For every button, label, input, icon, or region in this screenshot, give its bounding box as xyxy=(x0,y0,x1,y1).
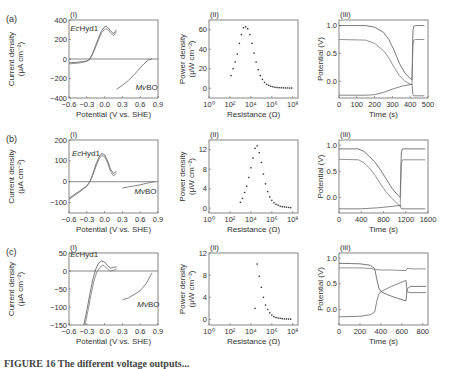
data-point xyxy=(253,52,254,53)
panel-label: (iii) xyxy=(340,10,351,19)
data-point xyxy=(265,304,266,305)
data-point xyxy=(285,87,286,88)
panel-label: (i) xyxy=(70,130,77,139)
annotation: EcHyd1 xyxy=(70,24,99,33)
series-line xyxy=(339,205,425,209)
series-line xyxy=(122,273,152,300)
series-line xyxy=(339,84,424,96)
y-axis-unit: (μA cm⁻²) xyxy=(16,159,25,194)
data-point xyxy=(262,79,263,80)
panel-c-iii: (iii)02004006008000.00.51.0Time (s)Poten… xyxy=(316,243,429,346)
plot-frame xyxy=(209,140,298,213)
data-point xyxy=(275,204,276,205)
x-tick-label: 0.3 xyxy=(117,327,127,336)
plot-frame xyxy=(339,20,428,98)
data-point xyxy=(265,183,266,184)
x-tick-label: 10⁶ xyxy=(266,215,277,224)
annotation: MvBO xyxy=(134,187,156,196)
x-axis-label: Potential (V vs. SHE) xyxy=(76,225,151,234)
y-tick-label: 0.5 xyxy=(327,279,337,288)
panel-label: (i) xyxy=(70,10,77,19)
data-point xyxy=(278,87,279,88)
data-point xyxy=(261,287,262,288)
data-point xyxy=(288,207,289,208)
data-point xyxy=(274,87,275,88)
y-axis-unit: (μW cm⁻²) xyxy=(187,270,196,307)
x-tick-label: 0.3 xyxy=(117,215,127,224)
x-tick-label: 10⁰ xyxy=(203,215,214,224)
x-axis-label: Time (s) xyxy=(369,225,398,234)
y-tick-label: 0.0 xyxy=(327,193,337,202)
plot-frame xyxy=(69,253,158,325)
y-tick-label: 50 xyxy=(59,249,67,258)
x-tick-label: 0.9 xyxy=(153,327,163,336)
y-tick-label: −200 xyxy=(50,74,67,83)
x-tick-label: 0.0 xyxy=(99,215,109,224)
panel-a-iii: (iii)01002003004005000.00.51.0Time (s)Po… xyxy=(316,10,434,119)
data-point xyxy=(273,202,274,203)
data-point xyxy=(263,173,264,174)
x-tick-label: 0 xyxy=(337,327,341,336)
row-label: (b) xyxy=(6,134,17,144)
x-tick-label: 0.3 xyxy=(117,100,127,109)
panel-a-ii: (ii)10⁰10²10⁴10⁶10⁸0204060Resistance (Ω)… xyxy=(178,10,299,119)
x-axis-label: Time (s) xyxy=(369,110,398,119)
series-line xyxy=(339,26,424,80)
series-line xyxy=(69,156,117,200)
y-axis-label: Current density xyxy=(7,149,16,203)
data-point xyxy=(282,318,283,319)
data-point xyxy=(237,53,238,54)
x-tick-label: 10⁴ xyxy=(245,100,257,109)
x-tick-label: 0 xyxy=(337,215,341,224)
x-tick-label: 10⁸ xyxy=(287,215,299,224)
x-tick-label: 800 xyxy=(417,327,430,336)
data-point xyxy=(240,202,241,203)
x-tick-label: 10⁰ xyxy=(203,327,214,336)
panel-label: (iii) xyxy=(340,243,351,252)
x-tick-label: 400 xyxy=(355,215,368,224)
y-tick-label: 0 xyxy=(63,55,67,64)
data-point xyxy=(267,309,268,310)
y-tick-label: 0 xyxy=(203,84,207,93)
series-line xyxy=(339,268,426,271)
data-point xyxy=(254,148,255,149)
y-tick-label: 0 xyxy=(63,267,67,276)
data-point xyxy=(241,34,242,35)
data-point xyxy=(272,86,273,87)
x-tick-label: 200 xyxy=(368,100,381,109)
x-tick-label: 1200 xyxy=(397,215,414,224)
data-point xyxy=(250,167,251,168)
annotation: EcHyd1 xyxy=(70,250,99,259)
x-tick-label: 10⁰ xyxy=(203,100,214,109)
x-tick-label: −0.3 xyxy=(79,215,94,224)
annotation: MvBO xyxy=(135,83,157,92)
x-axis-label: Resistance (Ω) xyxy=(227,225,280,234)
data-point xyxy=(289,87,290,88)
y-tick-label: 200 xyxy=(54,35,67,44)
x-tick-label: 10² xyxy=(225,100,236,109)
data-point xyxy=(232,68,233,69)
y-tick-label: 40 xyxy=(199,45,207,54)
data-point xyxy=(260,75,261,76)
x-tick-label: 0.0 xyxy=(99,327,109,336)
panel-label: (iii) xyxy=(340,130,351,139)
data-point xyxy=(263,297,264,298)
series-line xyxy=(69,29,117,64)
x-tick-label: 300 xyxy=(386,100,399,109)
y-axis-label: Power density xyxy=(178,34,187,84)
y-tick-label: 60 xyxy=(199,25,207,34)
x-tick-label: 10⁶ xyxy=(266,100,277,109)
data-point xyxy=(248,177,249,178)
y-tick-label: 0.5 xyxy=(327,49,337,58)
data-point xyxy=(242,198,243,199)
data-point xyxy=(230,75,231,76)
data-point xyxy=(243,27,244,28)
y-tick-label: 1.0 xyxy=(327,141,337,150)
y-tick-label: −100 xyxy=(50,198,67,207)
panel-label: (ii) xyxy=(210,130,219,139)
y-tick-label: −400 xyxy=(50,94,67,103)
panel-c-ii: (ii)10⁰10²10⁴10⁶10⁸04812Resistance (Ω)Po… xyxy=(178,243,299,346)
x-tick-label: 0.0 xyxy=(99,100,109,109)
x-tick-label: −0.6 xyxy=(62,215,77,224)
x-axis-label: Time (s) xyxy=(369,337,398,346)
